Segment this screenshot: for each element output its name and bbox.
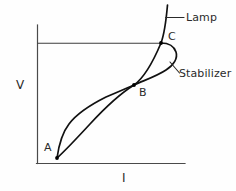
point-label-c: C xyxy=(168,31,176,42)
lamp-callout-label: Lamp xyxy=(186,12,217,23)
point-a-marker xyxy=(55,156,59,160)
point-c-marker xyxy=(159,41,163,45)
figure-canvas xyxy=(0,0,236,191)
point-b-marker xyxy=(132,83,136,87)
stabilizer-callout-label: Stabilizer xyxy=(179,68,231,79)
vi-characteristic-figure: V I A B C Lamp Stabilizer xyxy=(0,0,236,191)
x-axis-label: I xyxy=(122,172,126,184)
point-label-a: A xyxy=(44,142,52,153)
point-label-b: B xyxy=(139,87,147,98)
y-axis-label: V xyxy=(16,79,24,91)
lamp-curve xyxy=(57,5,168,158)
